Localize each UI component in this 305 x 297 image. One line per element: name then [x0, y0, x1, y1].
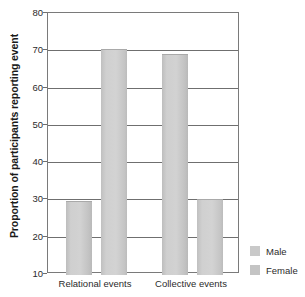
chart-figure: Proportion of participants reporting eve…: [0, 0, 305, 297]
y-axis-tick-label: 70: [17, 44, 43, 55]
bar-male-0: [66, 201, 92, 275]
y-axis-tick-label: 60: [17, 81, 43, 92]
y-axis-tick-mark: [43, 273, 47, 274]
plot-area: [47, 12, 239, 273]
gridline: [48, 125, 238, 126]
legend-swatch-icon: [250, 265, 260, 275]
y-axis-tick-group: 1020304050607080: [13, 12, 43, 273]
legend-label: Female: [266, 265, 298, 276]
bar-female-0: [101, 49, 127, 275]
gridline: [48, 50, 238, 51]
y-axis-tick-label: 30: [17, 193, 43, 204]
x-axis-tick-label: Relational events: [59, 278, 132, 289]
legend-label: Male: [266, 246, 287, 257]
gridline: [48, 162, 238, 163]
legend-swatch-icon: [250, 246, 260, 256]
bar-female-1: [197, 199, 223, 275]
y-axis-tick-label: 10: [17, 268, 43, 279]
gridline: [48, 88, 238, 89]
y-axis-tick-label: 20: [17, 230, 43, 241]
y-axis-tick-label: 50: [17, 118, 43, 129]
y-axis-tick-label: 40: [17, 156, 43, 167]
legend-item: Male: [250, 243, 298, 259]
x-axis-tick-label: Collective events: [155, 278, 227, 289]
legend-item: Female: [250, 262, 298, 278]
bar-male-1: [162, 54, 188, 275]
chart-legend: MaleFemale: [250, 243, 298, 281]
plot-inner: [48, 13, 238, 272]
y-axis-tick-label: 80: [17, 7, 43, 18]
